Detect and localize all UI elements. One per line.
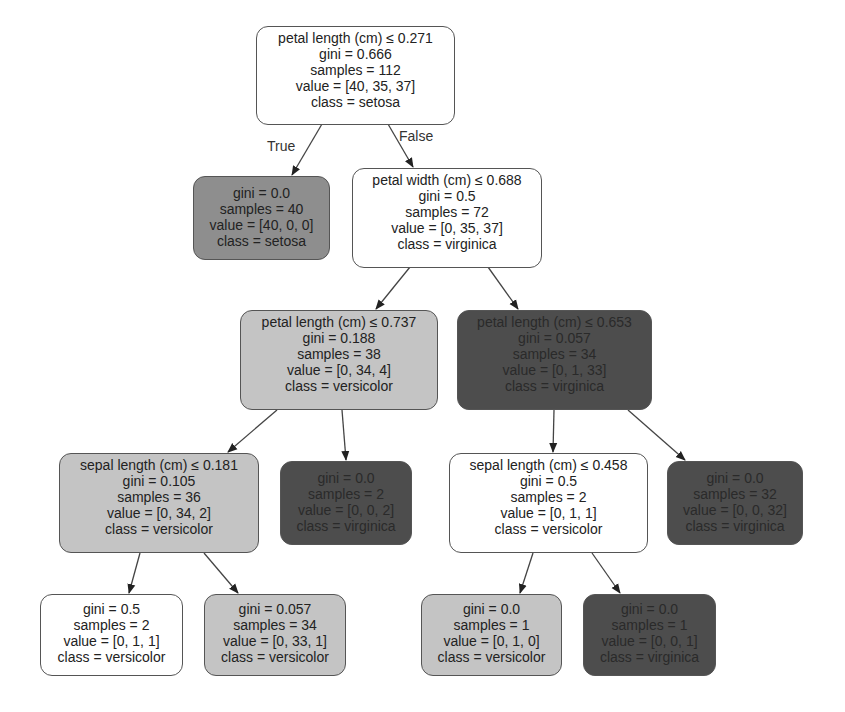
node-split-rule: petal length (cm) ≤ 0.271 (257, 30, 454, 46)
node-gini: gini = 0.0 (194, 185, 329, 201)
node-class: class = versicolor (450, 521, 647, 537)
node-class: class = versicolor (241, 378, 437, 394)
edge-n4-n7 (553, 410, 554, 452)
edge-n3-n6 (342, 410, 346, 460)
edge-n7-n12 (592, 553, 620, 593)
node-samples: samples = 1 (584, 617, 715, 633)
node-value: value = [0, 1, 33] (458, 362, 651, 378)
tree-node-leaf-virginica-2: gini = 0.0 samples = 2 value = [0, 0, 2]… (280, 461, 412, 545)
tree-node-petal-length-split-left: petal length (cm) ≤ 0.737 gini = 0.188 s… (240, 310, 438, 410)
edge-n5-n10 (204, 553, 238, 593)
node-split-rule: petal length (cm) ≤ 0.737 (241, 314, 437, 330)
node-value: value = [0, 1, 1] (41, 633, 182, 649)
tree-node-petal-length-split-right: petal length (cm) ≤ 0.653 gini = 0.057 s… (457, 310, 652, 410)
node-gini: gini = 0.188 (241, 330, 437, 346)
node-class: class = setosa (194, 233, 329, 249)
node-samples: samples = 2 (450, 489, 647, 505)
node-samples: samples = 36 (60, 489, 258, 505)
edge-n3-n5 (228, 410, 277, 452)
node-value: value = [0, 33, 1] (205, 633, 345, 649)
node-split-rule: petal width (cm) ≤ 0.688 (353, 172, 541, 188)
tree-node-leaf-versicolor-34: gini = 0.057 samples = 34 value = [0, 33… (204, 594, 346, 676)
node-samples: samples = 38 (241, 346, 437, 362)
node-value: value = [0, 1, 1] (450, 505, 647, 521)
node-value: value = [0, 1, 0] (422, 633, 561, 649)
node-gini: gini = 0.5 (353, 188, 541, 204)
edge-n7-n11 (520, 553, 533, 593)
edge-n5-n9 (129, 553, 140, 593)
node-samples: samples = 34 (205, 617, 345, 633)
node-gini: gini = 0.5 (450, 473, 647, 489)
tree-node-leaf-virginica-32: gini = 0.0 samples = 32 value = [0, 0, 3… (667, 461, 803, 545)
edge-label-false: False (399, 128, 433, 144)
node-class: class = versicolor (41, 649, 182, 665)
node-class: class = setosa (257, 94, 454, 110)
node-samples: samples = 72 (353, 204, 541, 220)
node-gini: gini = 0.666 (257, 46, 454, 62)
node-samples: samples = 32 (668, 486, 802, 502)
node-value: value = [0, 0, 32] (668, 502, 802, 518)
node-gini: gini = 0.0 (668, 470, 802, 486)
tree-node-petal-width-split: petal width (cm) ≤ 0.688 gini = 0.5 samp… (352, 168, 542, 268)
node-samples: samples = 112 (257, 62, 454, 78)
node-split-rule: sepal length (cm) ≤ 0.458 (450, 457, 647, 473)
node-gini: gini = 0.0 (422, 601, 561, 617)
node-samples: samples = 2 (281, 486, 411, 502)
node-class: class = versicolor (422, 649, 561, 665)
edge-label-true: True (267, 138, 295, 154)
node-class: class = virginica (458, 378, 651, 394)
node-gini: gini = 0.105 (60, 473, 258, 489)
node-value: value = [40, 0, 0] (194, 217, 329, 233)
node-samples: samples = 2 (41, 617, 182, 633)
node-value: value = [0, 0, 2] (281, 502, 411, 518)
node-samples: samples = 34 (458, 346, 651, 362)
node-class: class = virginica (668, 518, 802, 534)
node-gini: gini = 0.5 (41, 601, 182, 617)
node-gini: gini = 0.0 (281, 470, 411, 486)
tree-node-leaf-versicolor-1: gini = 0.0 samples = 1 value = [0, 1, 0]… (421, 594, 562, 676)
node-samples: samples = 40 (194, 201, 329, 217)
node-class: class = virginica (281, 518, 411, 534)
edge-n2-n3 (376, 267, 410, 309)
node-value: value = [0, 34, 4] (241, 362, 437, 378)
node-class: class = versicolor (205, 649, 345, 665)
node-split-rule: petal length (cm) ≤ 0.653 (458, 314, 651, 330)
tree-node-leaf-setosa: gini = 0.0 samples = 40 value = [40, 0, … (193, 176, 330, 260)
node-class: class = virginica (353, 236, 541, 252)
node-gini: gini = 0.057 (458, 330, 651, 346)
tree-node-leaf-virginica-1: gini = 0.0 samples = 1 value = [0, 0, 1]… (583, 594, 716, 676)
tree-node-root: petal length (cm) ≤ 0.271 gini = 0.666 s… (256, 26, 455, 125)
tree-node-sepal-length-split-right: sepal length (cm) ≤ 0.458 gini = 0.5 sam… (449, 453, 648, 553)
node-value: value = [40, 35, 37] (257, 78, 454, 94)
node-split-rule: sepal length (cm) ≤ 0.181 (60, 457, 258, 473)
edge-n2-n4 (488, 267, 518, 309)
edge-n0-n1 (292, 124, 322, 175)
node-gini: gini = 0.057 (205, 601, 345, 617)
tree-node-sepal-length-split-left: sepal length (cm) ≤ 0.181 gini = 0.105 s… (59, 453, 259, 553)
node-class: class = versicolor (60, 521, 258, 537)
node-gini: gini = 0.0 (584, 601, 715, 617)
tree-node-leaf-versicolor-mixed: gini = 0.5 samples = 2 value = [0, 1, 1]… (40, 594, 183, 676)
node-samples: samples = 1 (422, 617, 561, 633)
node-value: value = [0, 35, 37] (353, 220, 541, 236)
node-value: value = [0, 0, 1] (584, 633, 715, 649)
node-value: value = [0, 34, 2] (60, 505, 258, 521)
node-class: class = virginica (584, 649, 715, 665)
